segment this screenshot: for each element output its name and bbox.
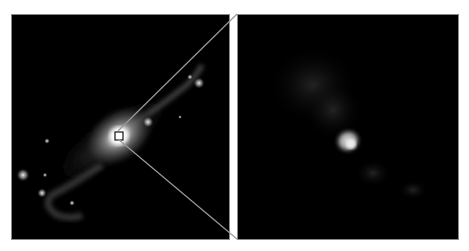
nucleus-zoom-panel: [237, 14, 459, 240]
galaxy-wide-panel: [11, 14, 230, 240]
galaxy-image: [12, 15, 230, 240]
nucleus-image: [238, 15, 459, 240]
